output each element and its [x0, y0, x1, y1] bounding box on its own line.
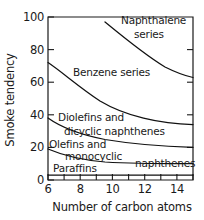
y-tick-label-60: 60 [30, 75, 44, 89]
label-olefins-line1: Olefins and [49, 138, 106, 150]
label-diolefins-line2: dicyclic naphthenes [64, 125, 165, 137]
x-axis-title: Number of carbon atoms [52, 200, 192, 214]
label-benzene-series: Benzene series [73, 66, 150, 78]
y-axis-ticks [48, 17, 54, 180]
y-tick-label-80: 80 [30, 43, 44, 57]
y-tick-label-0: 0 [37, 173, 44, 187]
x-tick-label-8: 8 [77, 182, 84, 196]
y-tick-label-20: 20 [30, 140, 44, 154]
label-olefins-line3: naphthenes [135, 157, 195, 169]
y-axis-title: Smoke tendency [3, 53, 17, 147]
x-tick-labels: 6 8 10 12 14 [44, 182, 183, 196]
y-tick-label-100: 100 [23, 10, 44, 24]
label-naphthalene-series-line2: series [134, 28, 164, 40]
x-tick-label-10: 10 [105, 182, 119, 196]
label-naphthalene-series-line1: Naphthalene [121, 14, 186, 26]
label-diolefins-line1: Diolefins and [58, 111, 124, 123]
x-tick-label-6: 6 [44, 182, 51, 196]
y-axis-right-ticks [187, 50, 193, 148]
label-paraffins: Paraffins [53, 162, 97, 174]
series-annotations: Naphthalene series Benzene series Diolef… [49, 14, 195, 174]
label-olefins-line2: monocyclic [65, 150, 123, 162]
y-tick-label-40: 40 [30, 108, 44, 122]
x-tick-label-12: 12 [138, 182, 152, 196]
chart-figure: 100 80 60 40 20 0 6 8 10 12 14 Number of… [0, 0, 204, 220]
smoke-tendency-chart: 100 80 60 40 20 0 6 8 10 12 14 Number of… [0, 0, 204, 220]
y-tick-labels: 100 80 60 40 20 0 [23, 10, 44, 187]
x-tick-label-14: 14 [170, 182, 184, 196]
